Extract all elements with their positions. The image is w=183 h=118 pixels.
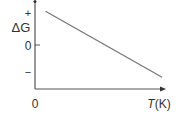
- y-tick-zero: 0: [25, 39, 32, 53]
- y-tick-plus: +: [25, 7, 31, 19]
- x-axis-label: T(K): [147, 97, 170, 111]
- y-axis-label: ΔG: [12, 20, 31, 35]
- x-origin-label: 0: [32, 97, 39, 111]
- series-line-0: [46, 11, 163, 77]
- y-tick-minus: −: [25, 66, 31, 78]
- x-axis-arrow-icon: [160, 87, 166, 92]
- y-axis-top-marker: [34, 0, 37, 3]
- chart: + ΔG 0 − 0 T(K): [0, 0, 183, 118]
